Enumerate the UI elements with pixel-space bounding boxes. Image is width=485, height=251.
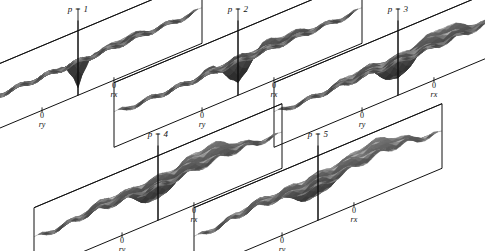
- figure-canvas: p = 100rxryp = 200rxryp = 300rxryp = 400…: [0, 0, 485, 251]
- panel-title-p2: p = 2: [158, 4, 318, 14]
- y-tick-zero-p3: 0: [351, 111, 373, 120]
- y-tick-zero-p5: 0: [271, 236, 293, 245]
- surface-plot-p3: [318, 0, 478, 126]
- surface-plot-p5: [238, 125, 398, 251]
- y-tick-zero-p2: 0: [191, 111, 213, 120]
- panel-title-p3: p = 3: [318, 4, 478, 14]
- x-tick-zero-p3: 0: [423, 81, 445, 90]
- y-tick-zero-p1: 0: [31, 111, 53, 120]
- surface-panel-p5: p = 500rxry: [238, 125, 398, 251]
- y-axis-label-p4: ry: [111, 245, 133, 251]
- surface-plot-p4: [78, 125, 238, 251]
- y-tick-zero-p4: 0: [111, 236, 133, 245]
- panel-title-p4: p = 4: [78, 129, 238, 139]
- x-axis-label-p5: rx: [343, 215, 365, 224]
- surface-panel-p3: p = 300rxry: [318, 0, 478, 126]
- y-axis-label-p1: ry: [31, 120, 53, 129]
- x-axis-label-p3: rx: [423, 90, 445, 99]
- panel-title-p5: p = 5: [238, 129, 398, 139]
- panel-title-p1: p = 1: [0, 4, 158, 14]
- surface-panel-p4: p = 400rxry: [78, 125, 238, 251]
- x-tick-zero-p5: 0: [343, 206, 365, 215]
- y-axis-label-p5: ry: [271, 245, 293, 251]
